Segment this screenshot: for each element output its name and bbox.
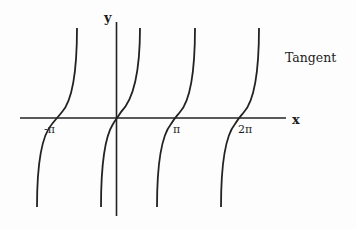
chart-title: Tangent <box>285 50 336 65</box>
tick-label-pi: π <box>173 123 180 136</box>
tangent-chart: y x Tangent -π π 2π <box>0 0 356 229</box>
tick-label-neg-pi: -π <box>44 123 55 136</box>
y-axis-label: y <box>103 10 112 25</box>
x-axis-label: x <box>292 112 300 127</box>
tick-label-2pi: 2π <box>238 123 252 136</box>
